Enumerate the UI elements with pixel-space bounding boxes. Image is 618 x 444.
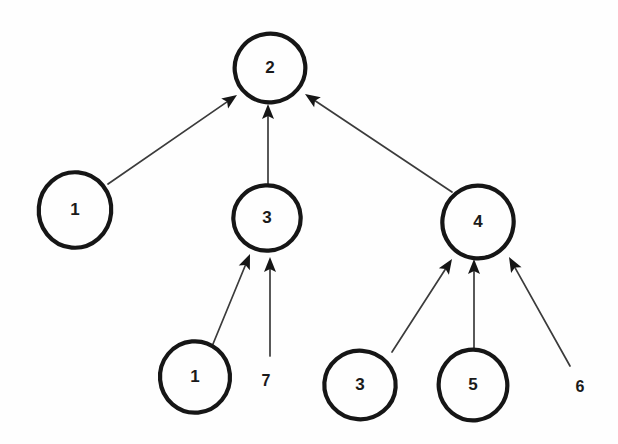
leaf-label-6: 6: [576, 378, 585, 395]
node-root[interactable]: 2: [231, 30, 308, 106]
edge-leaf1-to-mid3: [213, 254, 250, 344]
edge-left1-to-root: [108, 95, 237, 184]
node-mid3[interactable]: 3: [232, 184, 303, 253]
node-label: 1: [190, 367, 199, 386]
edge-leaf5-to-right4: [468, 259, 480, 350]
node-label: 3: [355, 375, 364, 394]
edge-leaf3-to-right4: [392, 259, 452, 352]
node-right4[interactable]: 4: [438, 182, 518, 263]
nodes-layer: 2134135: [36, 30, 518, 424]
tree-diagram-svg: 2134135 76: [0, 0, 618, 444]
node-leaf5[interactable]: 5: [435, 346, 512, 425]
diagram-canvas: 2134135 76: [0, 0, 618, 444]
node-label: 3: [262, 208, 271, 227]
edge-label7-to-mid3: [264, 257, 276, 356]
edge-label6-to-right4: [509, 257, 570, 366]
node-label: 1: [70, 200, 79, 219]
edge-line: [314, 100, 452, 192]
node-label: 4: [473, 212, 483, 231]
edge-line: [108, 101, 228, 184]
node-left1[interactable]: 1: [36, 169, 115, 251]
arrow-head-icon: [509, 257, 522, 273]
leaf-label-7: 7: [262, 372, 271, 389]
arrow-head-icon: [305, 94, 321, 107]
edge-line: [213, 264, 246, 344]
edge-mid3-to-root: [262, 104, 274, 185]
node-leaf1[interactable]: 1: [157, 338, 233, 415]
node-label: 5: [468, 375, 477, 394]
arrow-head-icon: [221, 95, 237, 108]
edge-line: [392, 268, 446, 352]
edge-line: [514, 266, 570, 366]
node-label: 2: [265, 58, 274, 77]
leaf-labels-layer: 76: [262, 372, 585, 395]
node-leaf3[interactable]: 3: [322, 348, 398, 421]
arrow-head-icon: [439, 259, 452, 275]
edge-right4-to-root: [305, 94, 452, 192]
